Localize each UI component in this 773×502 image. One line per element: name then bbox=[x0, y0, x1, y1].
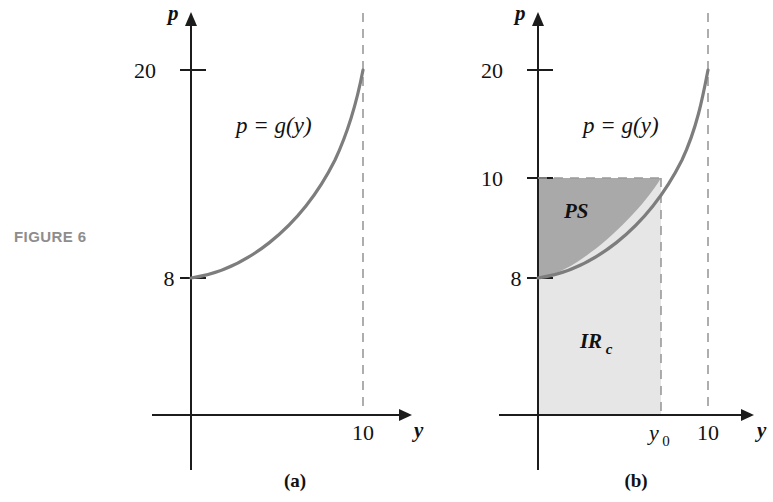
panel-b-ticklabel-y0-sub: 0 bbox=[662, 433, 670, 449]
panel-b-caption: (b) bbox=[624, 470, 647, 492]
panel-b-ticklabel-10x: 10 bbox=[697, 420, 719, 445]
panel-b-ticklabel-20: 20 bbox=[481, 58, 503, 83]
panel-a-caption: (a) bbox=[284, 470, 306, 492]
panel-b-ticklabel-y0-base: y bbox=[647, 420, 659, 445]
panel-b-ticklabel-10: 10 bbox=[481, 166, 503, 191]
panel-a-ticklabel-10: 10 bbox=[352, 420, 374, 445]
panel-a: p y 20 8 10 p = g(y) (a) bbox=[134, 1, 424, 492]
panel-b-region-label-ps: PS bbox=[563, 199, 589, 223]
panel-a-x-axis-arrow bbox=[399, 409, 412, 421]
panel-a-curve bbox=[191, 70, 363, 278]
panel-b-y-axis-label: p bbox=[513, 1, 526, 25]
panel-a-y-axis-label: p bbox=[166, 1, 179, 25]
panel-b: p y 20 10 8 y 0 10 p = g(y) PS IR c (b) bbox=[481, 1, 767, 492]
panel-a-curve-label: p = g(y) bbox=[234, 113, 312, 138]
panel-b-ticklabel-y0: y 0 bbox=[647, 420, 670, 449]
panel-b-y-axis-arrow bbox=[532, 12, 544, 26]
panel-a-ticklabel-20: 20 bbox=[134, 58, 156, 83]
panel-b-region-label-irc-base: IR bbox=[579, 329, 602, 353]
panel-b-x-axis-arrow bbox=[741, 409, 754, 421]
panel-a-ticklabel-8: 8 bbox=[164, 266, 175, 291]
panel-b-ticklabel-8: 8 bbox=[511, 266, 522, 291]
panel-b-region-label-irc-sub: c bbox=[606, 341, 613, 357]
panel-b-curve-label: p = g(y) bbox=[581, 113, 659, 138]
figure-canvas: p y 20 8 10 p = g(y) (a) p y 20 bbox=[0, 0, 773, 502]
panel-a-y-axis-arrow bbox=[185, 12, 197, 26]
panel-a-x-axis-label: y bbox=[411, 418, 424, 442]
panel-b-x-axis-label: y bbox=[754, 418, 767, 442]
